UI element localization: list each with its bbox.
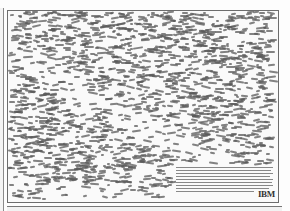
next-page-edge [7, 206, 282, 211]
ad-poster: Dense field of tiny scattered word fragm… [7, 10, 279, 203]
ibm-logo: IBM [258, 189, 275, 199]
previous-page-edge [0, 8, 4, 211]
